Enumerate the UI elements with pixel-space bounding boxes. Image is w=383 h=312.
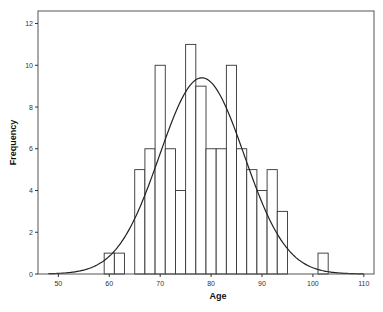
histogram-bar [155,65,165,274]
histogram-bar [135,170,145,274]
x-tick-label: 80 [207,280,215,287]
histogram-chart: 024681012 5060708090100110 Age Frequency [0,0,383,312]
histogram-bar [165,149,175,274]
y-tick-label: 10 [25,62,33,69]
y-tick-label: 8 [29,104,33,111]
histogram-bar [186,44,196,274]
y-tick-label: 12 [25,20,33,27]
y-axis-title: Frequency [8,120,18,166]
histogram-bar [237,149,247,274]
histogram-bar [216,149,226,274]
histogram-bar [226,65,236,274]
x-tick-label: 70 [156,280,164,287]
x-axis: 5060708090100110 [54,274,369,287]
histogram-bar [145,149,155,274]
histogram-bar [196,86,206,274]
bars-group [104,44,328,274]
y-axis: 024681012 [25,20,38,277]
histogram-bar [267,170,277,274]
x-tick-label: 90 [258,280,266,287]
y-tick-label: 4 [29,187,33,194]
x-tick-label: 110 [358,280,369,287]
x-tick-label: 100 [307,280,319,287]
y-tick-label: 2 [29,229,33,236]
y-tick-label: 0 [29,271,33,278]
x-tick-label: 60 [105,280,113,287]
histogram-bar [206,149,216,274]
y-tick-label: 6 [29,145,33,152]
x-axis-title: Age [209,291,226,301]
x-tick-label: 50 [54,280,62,287]
histogram-bar [175,191,185,274]
histogram-bar [114,253,124,274]
